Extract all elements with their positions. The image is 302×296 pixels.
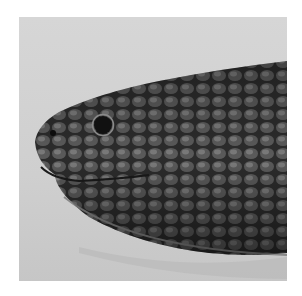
snake-nostril — [50, 130, 56, 136]
snake-eye — [94, 116, 112, 134]
snake-photo — [19, 17, 287, 281]
snake-head-illustration — [19, 17, 287, 281]
